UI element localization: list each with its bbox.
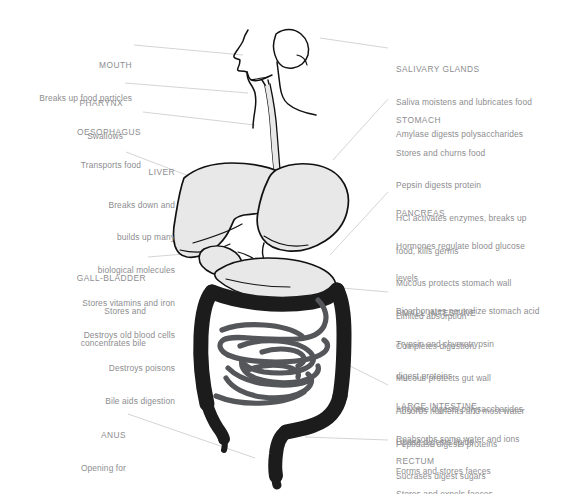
- label-small-intestine-term: SMALL INTESTINE: [396, 308, 562, 319]
- label-pancreas-desc-1: levels: [396, 273, 562, 284]
- anus-opening-icon: [276, 476, 277, 485]
- stomach-shape-icon: [257, 164, 348, 251]
- leader-line-salivary-glands: [320, 38, 388, 48]
- label-rectum-term: RECTUM: [396, 456, 562, 467]
- label-gall-bladder-desc-1: concentrates bile: [0, 338, 146, 349]
- label-liver-term: LIVER: [0, 167, 175, 178]
- leader-line-mouth: [134, 45, 243, 55]
- appendix-icon: [224, 439, 225, 450]
- label-pancreas-desc-0: Hormones regulate blood glucose: [396, 241, 562, 252]
- label-liver-desc-1: builds up many: [0, 232, 175, 243]
- label-gall-bladder: GALL-BLADDER Stores and concentrates bil…: [0, 251, 146, 371]
- rectum-organ: [275, 432, 286, 485]
- leader-line-oesophagus: [143, 112, 255, 125]
- head-profile: [234, 30, 272, 128]
- label-large-intestine-term: LARGE INTESTINE: [396, 401, 562, 412]
- salivary-glands-organ: [274, 30, 309, 69]
- label-salivary-glands-term: SALIVARY GLANDS: [396, 64, 562, 75]
- neck-back-outline-icon: [277, 62, 316, 115]
- label-gall-bladder-desc-0: Stores and: [0, 306, 146, 317]
- label-rectum: RECTUM Stores and expels faeces: [396, 434, 562, 494]
- label-anus-term: ANUS: [0, 430, 126, 441]
- sigmoid-colon-icon: [286, 396, 340, 432]
- label-stomach-term: STOMACH: [396, 115, 562, 126]
- label-anus-desc-0: Opening for: [0, 463, 126, 474]
- stomach-organ: [257, 164, 348, 262]
- label-liver-desc-6: Bile aids digestion: [0, 396, 175, 407]
- label-gall-bladder-term: GALL-BLADDER: [0, 273, 146, 284]
- face-outline-icon: [234, 30, 272, 81]
- oesophagus-organ: [265, 80, 280, 170]
- label-stomach-desc-0: Stores and churns food: [396, 148, 562, 159]
- label-oesophagus-term: OESOPHAGUS: [0, 127, 141, 138]
- leader-line-stomach: [333, 99, 388, 160]
- label-anus: ANUS Opening for elimination of faeces: [0, 408, 126, 494]
- leader-line-small-intestine: [342, 288, 388, 292]
- ascending-colon-icon: [337, 290, 344, 396]
- label-liver-desc-0: Breaks down and: [0, 200, 175, 211]
- small-intestine-organ: [216, 300, 327, 403]
- leader-line-rectum: [305, 437, 388, 440]
- caecum-icon: [207, 404, 224, 439]
- large-intestine-organ: [201, 290, 344, 450]
- label-small-intestine-desc-0: Completes digestion: [396, 341, 562, 352]
- leader-line-pharynx: [125, 83, 248, 93]
- small-intestine-coil-8-icon: [222, 325, 302, 336]
- salivary-gland-shape-icon: [274, 30, 309, 69]
- label-mouth-term: MOUTH: [0, 60, 132, 71]
- label-rectum-desc-0: Stores and expels faeces: [396, 489, 562, 494]
- rectum-icon: [275, 432, 286, 476]
- digestive-system-diagram: MOUTH Breaks up food particles PHARYNX S…: [0, 0, 562, 494]
- label-pancreas-term: PANCREAS: [396, 208, 562, 219]
- descending-colon-icon: [201, 292, 212, 404]
